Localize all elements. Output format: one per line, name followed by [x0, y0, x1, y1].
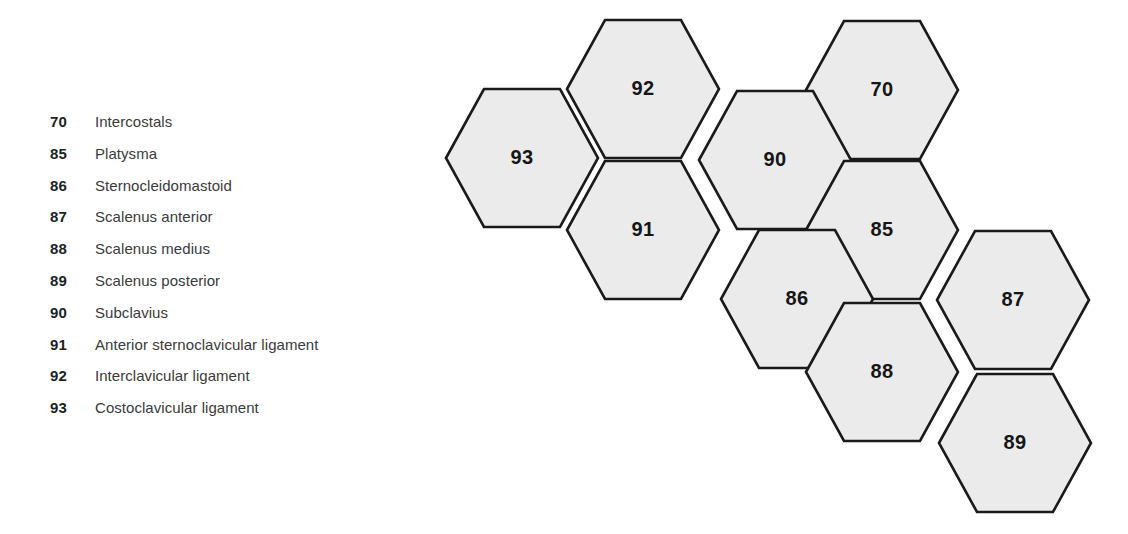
hex-label: 87 — [1001, 288, 1024, 310]
hex-cell[interactable]: 92 — [567, 20, 719, 158]
hex-label: 91 — [631, 218, 654, 240]
hex-label: 86 — [785, 287, 808, 309]
hex-label: 70 — [870, 78, 893, 100]
hexagon-diagram: 92709390918586878889 — [0, 0, 1128, 534]
hex-cell[interactable]: 89 — [939, 374, 1091, 512]
hex-cell[interactable]: 91 — [567, 161, 719, 299]
hex-cell[interactable]: 93 — [446, 89, 598, 227]
hex-label: 92 — [631, 77, 654, 99]
hex-label: 88 — [870, 360, 893, 382]
hexagon-diagram-svg: 92709390918586878889 — [0, 0, 1128, 534]
figure-canvas: 70Intercostals85Platysma86Sternocleidoma… — [0, 0, 1128, 534]
hex-label: 90 — [763, 148, 786, 170]
hex-label: 93 — [510, 146, 533, 168]
hex-label: 85 — [870, 218, 893, 240]
hex-label: 89 — [1003, 431, 1026, 453]
hex-cell[interactable]: 87 — [937, 231, 1089, 369]
